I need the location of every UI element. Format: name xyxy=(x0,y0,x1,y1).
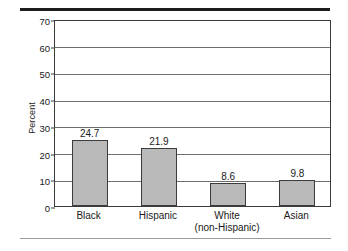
y-tick-mark xyxy=(51,127,55,128)
y-tick-label: 30 xyxy=(39,122,50,133)
top-divider-rule xyxy=(20,8,330,11)
bar-chart-figure: Percent 01020304050607024.721.98.69.8 Bl… xyxy=(0,0,348,251)
y-tick-label: 20 xyxy=(39,149,50,160)
bar-value-label: 9.8 xyxy=(290,168,304,179)
y-tick-label: 10 xyxy=(39,176,50,187)
gridline xyxy=(55,47,330,48)
y-tick-label: 40 xyxy=(39,96,50,107)
x-tick-label: Asian xyxy=(236,210,348,222)
y-tick-mark xyxy=(51,47,55,48)
bar[interactable]: 9.8 xyxy=(279,180,315,206)
y-tick-mark xyxy=(51,21,55,22)
y-axis-title: Percent xyxy=(27,78,37,158)
y-tick-mark xyxy=(51,101,55,102)
x-tick-label-line: (non-Hispanic) xyxy=(167,222,287,234)
bottom-divider-rule xyxy=(20,238,331,239)
bar-value-label: 24.7 xyxy=(80,128,99,139)
bar-value-label: 8.6 xyxy=(221,171,235,182)
y-tick-label: 70 xyxy=(39,16,50,27)
x-tick-label-line: Asian xyxy=(284,210,309,221)
bar[interactable]: 8.6 xyxy=(210,183,246,206)
bar[interactable]: 21.9 xyxy=(141,148,177,207)
y-tick-mark xyxy=(51,181,55,182)
plot-area: 01020304050607024.721.98.69.8 xyxy=(54,20,331,207)
y-tick-label: 60 xyxy=(39,42,50,53)
gridline xyxy=(55,101,330,102)
y-tick-mark xyxy=(51,208,55,209)
gridline xyxy=(55,74,330,75)
y-tick-mark xyxy=(51,154,55,155)
bar[interactable]: 24.7 xyxy=(72,140,108,206)
bar-value-label: 21.9 xyxy=(149,136,168,147)
y-tick-mark xyxy=(51,74,55,75)
y-tick-label: 50 xyxy=(39,69,50,80)
